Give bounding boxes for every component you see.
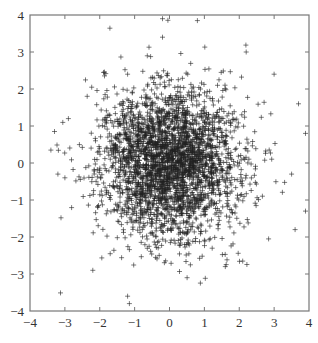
x-tick-label: 0 [166, 315, 173, 330]
x-tick-label: −4 [23, 315, 37, 330]
y-tick-label: −3 [10, 267, 24, 282]
y-tick-label: −4 [10, 304, 24, 319]
plus-markers [48, 16, 308, 306]
x-tick-label: −2 [93, 315, 107, 330]
scatter-points [48, 16, 308, 306]
x-tick-label: 1 [201, 315, 208, 330]
y-tick-label: 0 [18, 156, 25, 171]
y-tick-label: 3 [18, 45, 25, 60]
x-tick-label: 4 [306, 315, 313, 330]
scatter-chart: −4−3−2−101234 −4−3−2−101234 [0, 0, 318, 334]
x-tick-label: −1 [128, 315, 142, 330]
y-tick-label: 2 [18, 82, 25, 97]
x-tick-label: −3 [58, 315, 72, 330]
y-tick-label: 1 [18, 119, 25, 134]
y-tick-label: −2 [10, 230, 24, 245]
x-tick-label: 2 [236, 315, 243, 330]
y-tick-label: −1 [10, 193, 24, 208]
x-tick-label: 3 [271, 315, 278, 330]
y-tick-label: 4 [18, 8, 25, 23]
figure-caption [10, 334, 310, 343]
